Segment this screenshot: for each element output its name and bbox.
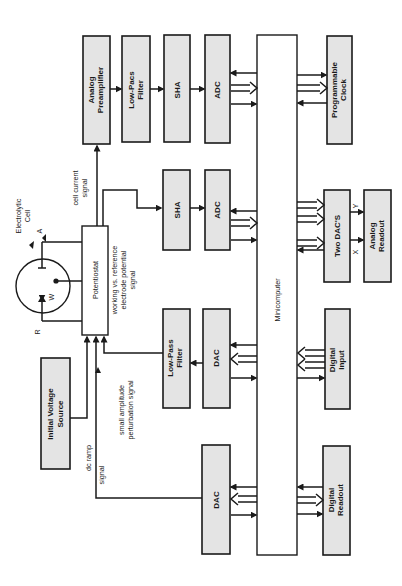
adc-mid-block: ADC	[205, 170, 230, 250]
dac-bottom-label: DAC	[212, 491, 221, 509]
adc-top-bus-arrows	[231, 73, 257, 104]
sha-mid-block: SHA	[163, 170, 190, 250]
dac-mid-bus-arrows	[231, 345, 257, 378]
initial-voltage-label-2: Source	[56, 400, 65, 428]
perturbation-connector: small amplitude perturbation signal	[95, 337, 163, 440]
perturbation-label-2: perturbation signal	[126, 380, 135, 440]
minicomputer-label: Minicomputer	[273, 278, 282, 322]
digital-readout-label-2: Readout	[336, 484, 345, 516]
electrolytic-cell: W A R Electrolytic Cell	[14, 198, 82, 334]
analog-readout-label-1: Analog	[368, 222, 377, 249]
initial-voltage-source-block: Initial Voltage Source	[41, 358, 70, 469]
analog-readout-block: Analog Readout	[364, 190, 391, 282]
low-pass-filter-top-label-1: Low-Pacs	[127, 71, 136, 109]
two-dacs-bus-arrows	[297, 199, 324, 250]
cell-pointer-icon	[29, 241, 34, 249]
low-pass-filter-mid-label-1: Low-Pass	[166, 339, 175, 377]
adc-mid-label: ADC	[213, 201, 222, 219]
minicomputer-block: Minicomputer	[257, 35, 297, 555]
cell-current-connector: cell current signal	[71, 146, 97, 226]
programmable-clock-label-1: Programmable	[330, 61, 339, 118]
digital-input-block: Digital Input	[325, 309, 350, 409]
potentiostat-block: Potentiostat	[82, 226, 108, 335]
electrode-w-label: W	[47, 293, 56, 300]
digital-input-label-2: Input	[337, 350, 346, 370]
digital-input-label-1: Digital	[328, 348, 337, 372]
dac-mid-label: DAC	[212, 349, 221, 367]
programmable-clock-block: Programmable Clock	[327, 36, 352, 144]
dac-bottom-bus-arrows	[231, 487, 257, 515]
analog-preamplifier-label-2: Preamplifier	[96, 67, 105, 113]
working-ref-label-1: working vs. reference	[110, 246, 119, 315]
low-pass-filter-top-block: Low-Pacs Filter	[122, 36, 150, 142]
adc-top-block: ADC	[205, 35, 230, 143]
working-ref-label-3: signal	[128, 270, 137, 289]
dac-mid-block: DAC	[203, 309, 230, 408]
cell-current-label-1: cell current	[71, 170, 80, 205]
cell-current-label-2: signal	[80, 178, 89, 197]
cell-title-2: Cell	[23, 209, 32, 222]
analog-preamplifier-label-1: Analog	[87, 76, 96, 103]
cell-title-1: Electrolytic	[14, 198, 23, 233]
digital-readout-block: Digital Readout	[323, 446, 350, 555]
working-ref-label-2: electrode potential	[119, 250, 128, 309]
adc-top-label: ADC	[213, 81, 222, 99]
low-pass-filter-mid-block: Low-Pass Filter	[163, 309, 190, 408]
digital-readout-bus-arrows	[297, 487, 323, 514]
digital-input-bus-arrows	[297, 347, 325, 378]
a-pointer-icon	[42, 234, 46, 242]
potentiostat-label: Potentiostat	[91, 261, 100, 299]
clock-bus-arrows	[297, 75, 327, 103]
initial-voltage-label-1: Initial Voltage	[46, 388, 55, 440]
electrode-r-label: R	[33, 329, 42, 334]
low-pass-filter-top-label-2: Filter	[136, 80, 145, 100]
programmable-clock-label-2: Clock	[339, 79, 348, 101]
analog-readout-label-2: Readout	[377, 220, 386, 252]
working-ref-connector: working vs. reference electrode potentia…	[103, 190, 161, 315]
electrode-a-label: A	[35, 228, 44, 233]
adc-mid-bus-arrows	[231, 211, 257, 240]
dac-bottom-block: DAC	[202, 445, 230, 554]
sha-mid-label: SHA	[173, 201, 182, 218]
perturbation-label-1: small amplitude	[117, 385, 126, 435]
sha-top-label: SHA	[173, 81, 182, 98]
y-label: Y	[351, 203, 360, 208]
initial-voltage-connector	[70, 337, 87, 418]
dc-ramp-label-1: dc ramp	[84, 445, 93, 471]
low-pass-filter-mid-label-2: Filter	[175, 348, 184, 368]
two-dacs-label: Two DAC'S	[333, 214, 342, 257]
block-diagram: Minicomputer Analog Preamplifier Low-Pac…	[0, 0, 402, 586]
analog-preamplifier-block: Analog Preamplifier	[83, 36, 110, 144]
two-dacs-block: Two DAC'S	[324, 190, 350, 282]
dc-ramp-label-2: signal	[97, 465, 106, 484]
sha-top-block: SHA	[164, 35, 190, 142]
x-label: X	[351, 249, 360, 254]
digital-readout-label-1: Digital	[327, 488, 336, 512]
